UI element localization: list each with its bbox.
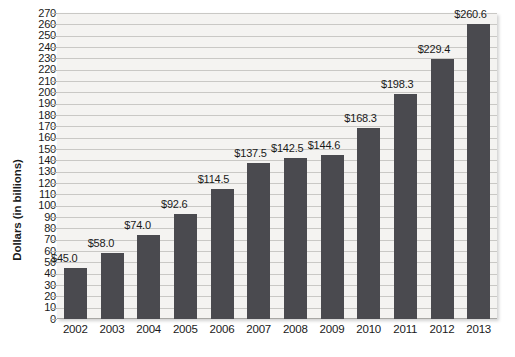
- y-axis-tick-mark: [50, 296, 57, 297]
- y-axis-tick-mark: [50, 81, 57, 82]
- bar: [431, 59, 454, 319]
- y-axis-tick-marks: [50, 13, 57, 319]
- bar-value-label: $74.0: [124, 220, 151, 231]
- y-axis-tick-mark: [50, 92, 57, 93]
- y-axis-tick-mark: [50, 285, 57, 286]
- bar: [101, 253, 124, 319]
- x-axis-tick-labels: 2002200320042005200620072008200920102011…: [57, 322, 497, 342]
- bar-value-label: $229.4: [418, 44, 450, 55]
- y-axis-tick-mark: [50, 138, 57, 139]
- plot-area: $45.0$58.0$74.0$92.6$114.5$137.5$142.5$1…: [57, 13, 497, 319]
- bar-value-label: $137.5: [234, 148, 266, 159]
- bar-value-label: $260.6: [454, 9, 486, 20]
- bar-value-label: $114.5: [198, 174, 230, 185]
- bar: [174, 214, 197, 319]
- x-axis-tick-label: 2012: [424, 322, 461, 336]
- bar: [321, 155, 344, 319]
- x-axis-tick-label: 2009: [314, 322, 351, 336]
- x-axis-tick-label: 2007: [240, 322, 277, 336]
- y-axis-tick-mark: [50, 13, 57, 14]
- bar-value-label: $198.3: [381, 79, 413, 90]
- x-axis-tick-label: 2003: [94, 322, 131, 336]
- bars-layer: $45.0$58.0$74.0$92.6$114.5$137.5$142.5$1…: [57, 13, 497, 319]
- y-axis-tick-mark: [50, 70, 57, 71]
- bar-value-label: $144.6: [308, 140, 340, 151]
- x-axis-tick-label: 2013: [460, 322, 497, 336]
- bar-value-label: $58.0: [88, 238, 115, 249]
- bar: [211, 189, 234, 319]
- bar-value-label: $142.5: [271, 143, 303, 154]
- x-axis-tick-label: 2010: [350, 322, 387, 336]
- y-axis-tick-mark: [50, 24, 57, 25]
- y-axis-tick-mark: [50, 104, 57, 105]
- bar: [284, 158, 307, 320]
- y-axis-tick-mark: [50, 149, 57, 150]
- y-axis-tick-mark: [50, 206, 57, 207]
- y-axis-tick-mark: [50, 217, 57, 218]
- bar: [64, 268, 87, 319]
- y-axis-title-text: Dollars (in billions): [11, 159, 23, 260]
- y-axis-title: Dollars (in billions): [6, 120, 28, 300]
- bar-value-label: $168.3: [344, 113, 376, 124]
- y-axis-tick-mark: [50, 47, 57, 48]
- x-axis-tick-label: 2005: [167, 322, 204, 336]
- y-axis-tick-mark: [50, 240, 57, 241]
- x-axis-tick-label: 2002: [57, 322, 94, 336]
- bar: [467, 24, 490, 319]
- y-axis-tick-mark: [50, 183, 57, 184]
- y-axis-tick-mark: [50, 319, 57, 320]
- bar: [247, 163, 270, 319]
- y-axis-tick-mark: [50, 160, 57, 161]
- y-axis-tick-mark: [50, 58, 57, 59]
- x-axis-tick-label: 2008: [277, 322, 314, 336]
- bar-chart: Dollars (in billions) 010203040506070809…: [0, 0, 515, 357]
- bar: [137, 235, 160, 319]
- x-axis-tick-label: 2004: [130, 322, 167, 336]
- bar-value-label: $45.0: [51, 253, 78, 264]
- y-axis-tick-mark: [50, 115, 57, 116]
- x-axis-tick-label: 2006: [204, 322, 241, 336]
- bar-value-label: $92.6: [161, 199, 188, 210]
- x-axis-tick-label: 2011: [387, 322, 424, 336]
- y-axis-tick-mark: [50, 308, 57, 309]
- y-axis-tick-mark: [50, 36, 57, 37]
- y-axis-tick-mark: [50, 228, 57, 229]
- y-axis-tick-mark: [50, 172, 57, 173]
- bar: [357, 128, 380, 319]
- y-axis-tick-mark: [50, 274, 57, 275]
- y-axis-tick-mark: [50, 126, 57, 127]
- y-axis-tick-mark: [50, 194, 57, 195]
- bar: [394, 94, 417, 319]
